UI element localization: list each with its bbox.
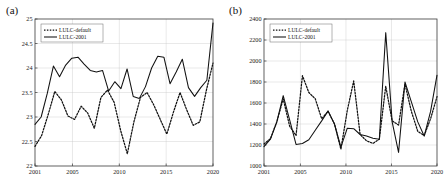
x-tick-label: 2005 [294, 168, 306, 175]
y-tick-label: 24.5 [22, 40, 33, 47]
panel-b: (b) 100012001400160018002000220024002001… [224, 0, 448, 188]
panel-b-chart: 1000120014001600180020002200240020012005… [224, 0, 448, 188]
y-tick-label: 24 [26, 64, 32, 71]
y-tick-label: 25 [26, 15, 32, 22]
series-line-solid [264, 33, 437, 153]
y-tick-label: 2400 [249, 15, 261, 22]
y-tick-label: 23 [26, 113, 32, 120]
x-tick-label: 2015 [385, 168, 397, 175]
panel-a: (a) 2222.52323.52424.5252001200520102015… [0, 0, 224, 188]
x-tick-label: 2020 [431, 168, 443, 175]
x-tick-label: 2001 [258, 168, 270, 175]
x-tick-label: 2005 [66, 168, 78, 175]
legend-label: LULC-default [59, 27, 91, 33]
y-tick-label: 1200 [249, 141, 261, 148]
legend-label: LULC-2001 [288, 34, 316, 40]
y-tick-label: 22.5 [22, 138, 33, 145]
panel-a-chart: 2222.52323.52424.52520012005201020152020… [0, 0, 224, 188]
x-tick-label: 2010 [340, 168, 352, 175]
x-tick-label: 2001 [29, 168, 41, 175]
series-line-dotted [264, 76, 437, 150]
y-tick-label: 2000 [249, 57, 261, 64]
x-tick-label: 2015 [160, 168, 172, 175]
y-tick-label: 1800 [249, 78, 261, 85]
y-tick-label: 1600 [249, 99, 261, 106]
legend-label: LULC-2001 [59, 34, 87, 40]
panel-b-label: (b) [229, 4, 242, 16]
x-tick-label: 2020 [207, 168, 219, 175]
x-tick-label: 2010 [113, 168, 125, 175]
y-tick-label: 1400 [249, 120, 261, 127]
legend-label: LULC-default [288, 27, 320, 33]
y-tick-label: 23.5 [22, 89, 33, 96]
y-tick-label: 2200 [249, 36, 261, 43]
panel-a-label: (a) [6, 4, 18, 16]
figure-container: (a) 2222.52323.52424.5252001200520102015… [0, 0, 448, 188]
